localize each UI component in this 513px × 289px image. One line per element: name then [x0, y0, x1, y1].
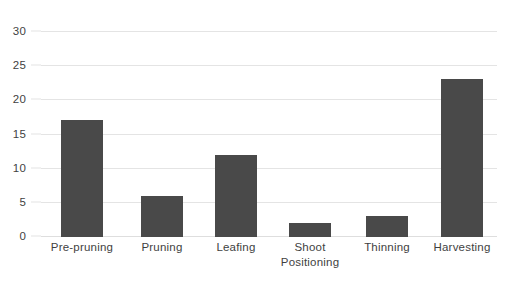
y-tick-mark-15	[31, 134, 41, 135]
plot-area	[41, 31, 497, 237]
y-tick-label-0: 0	[19, 230, 26, 242]
x-tick-label-harvesting: Harvesting	[417, 240, 507, 255]
bar-pre-pruning	[61, 120, 103, 237]
x-tick-label-pre-pruning: Pre-pruning	[37, 240, 127, 255]
y-tick-label-20: 20	[13, 93, 26, 105]
y-tick-mark-0	[31, 236, 41, 237]
gridline-10	[41, 168, 497, 169]
y-tick-mark-5	[31, 202, 41, 203]
bar-harvesting	[441, 79, 483, 237]
y-tick-label-5: 5	[19, 196, 26, 208]
gridline-5	[41, 202, 497, 203]
bar-thinning	[366, 216, 408, 237]
gridline-25	[41, 65, 497, 66]
y-tick-mark-20	[31, 99, 41, 100]
bar-pruning	[141, 196, 183, 237]
y-tick-mark-30	[31, 31, 41, 32]
y-tick-mark-25	[31, 65, 41, 66]
bar-shoot-positioning	[289, 223, 331, 237]
bar-chart: 30 25 20 15 10 5 0 Pre-pruning Pruning L…	[0, 0, 513, 289]
y-tick-label-30: 30	[13, 25, 26, 37]
y-tick-mark-10	[31, 168, 41, 169]
y-tick-label-15: 15	[13, 128, 26, 140]
bar-leafing	[215, 155, 257, 237]
axis-baseline	[41, 236, 497, 237]
y-axis: 30 25 20 15 10 5 0	[0, 31, 41, 237]
gridline-30	[41, 31, 497, 32]
y-tick-label-10: 10	[13, 162, 26, 174]
gridline-15	[41, 134, 497, 135]
x-axis: Pre-pruning Pruning Leafing Shoot Positi…	[41, 240, 497, 289]
y-tick-label-25: 25	[13, 59, 26, 71]
gridline-20	[41, 99, 497, 100]
